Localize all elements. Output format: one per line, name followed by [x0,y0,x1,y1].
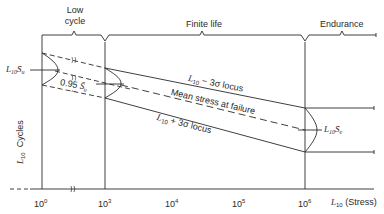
xtick-base: 10 [232,199,242,209]
region-finite-life-label: Finite life [186,20,222,29]
low-cycle-line1: Low [64,6,86,15]
distribution-curve-1e0 [42,53,58,85]
sn-diagram [0,0,384,214]
region-low-cycle-label: Low cycle [64,6,86,26]
xtick-exp: 4 [175,198,178,204]
low-cycle-upper-dashed [42,53,105,68]
nf-value: 0.95 [59,77,78,90]
xtick-base: 10 [165,199,175,209]
xtick-exp: 6 [308,198,311,204]
x-axis-label: L10 (Stress) [331,198,377,208]
xlabel-sub: 10 [336,202,343,208]
region-brackets [42,31,376,41]
xtick-exp: 3 [108,198,111,204]
xtick-1e5: 105 [232,198,245,209]
el-symsub: e [340,129,343,135]
xtick-1e6: 106 [298,198,311,209]
ylabel-prefix: L [15,159,25,164]
xtick-exp: 5 [242,198,245,204]
xtick-1e3: 103 [98,198,111,209]
xtick-base: 10 [34,199,44,209]
distribution-curve-1e3 [105,68,121,98]
xlabel-text: (Stress) [345,197,377,207]
xtick-base: 10 [98,199,108,209]
ult-symsub: u [22,69,25,75]
mean-stress-dashed [121,85,305,130]
ultimate-strength-label: L10S̄u [6,65,25,75]
region-endurance-label: Endurance [320,20,364,29]
xtick-base: 10 [298,199,308,209]
xtick-1e4: 104 [165,198,178,209]
ylabel-text: Cycles [15,120,25,147]
ylabel-sub: 10 [20,152,26,159]
y-axis-label: L10 Cycles [16,120,26,164]
xtick-exp: 0 [44,198,47,204]
nf-symsub: u [83,86,87,92]
xtick-1e0: 100 [34,198,47,209]
low-cycle-line2: cycle [64,17,86,26]
endurance-limit-label: L10S̄e [324,125,342,135]
